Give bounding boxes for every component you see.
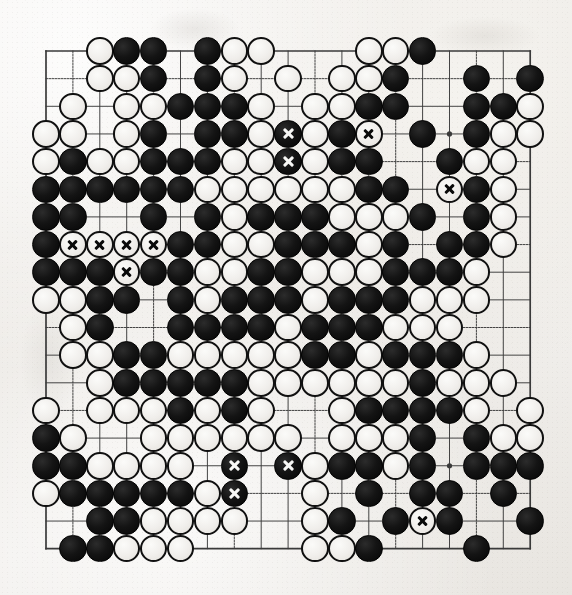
stone-black[interactable] bbox=[113, 507, 141, 535]
stone-white[interactable] bbox=[274, 65, 302, 93]
stone-white[interactable] bbox=[32, 148, 60, 176]
stone-white[interactable] bbox=[301, 535, 329, 563]
stone-white[interactable] bbox=[436, 369, 464, 397]
stone-white[interactable] bbox=[59, 314, 87, 342]
stone-black[interactable] bbox=[409, 452, 437, 480]
stone-white[interactable] bbox=[463, 286, 491, 314]
stone-white[interactable] bbox=[221, 203, 249, 231]
stone-black[interactable] bbox=[463, 424, 491, 452]
stone-black[interactable] bbox=[59, 452, 87, 480]
stone-white[interactable] bbox=[355, 231, 383, 259]
stone-black[interactable] bbox=[409, 369, 437, 397]
stone-white[interactable] bbox=[86, 148, 114, 176]
stone-white[interactable] bbox=[113, 120, 141, 148]
stone-black[interactable] bbox=[59, 176, 87, 204]
stone-black[interactable] bbox=[140, 120, 168, 148]
stone-black[interactable] bbox=[463, 120, 491, 148]
stone-black-marked[interactable] bbox=[274, 452, 302, 480]
stone-white[interactable] bbox=[59, 424, 87, 452]
stone-black[interactable] bbox=[328, 507, 356, 535]
stone-black-marked[interactable] bbox=[274, 120, 302, 148]
stone-white[interactable] bbox=[490, 369, 518, 397]
stone-white[interactable] bbox=[382, 37, 410, 65]
stone-black[interactable] bbox=[86, 258, 114, 286]
stone-black[interactable] bbox=[463, 452, 491, 480]
stone-white[interactable] bbox=[247, 176, 275, 204]
stone-black[interactable] bbox=[355, 480, 383, 508]
stone-black[interactable] bbox=[113, 286, 141, 314]
stone-black[interactable] bbox=[140, 258, 168, 286]
stone-white[interactable] bbox=[516, 120, 544, 148]
stone-white[interactable] bbox=[516, 424, 544, 452]
stone-black[interactable] bbox=[32, 452, 60, 480]
stone-white[interactable] bbox=[301, 93, 329, 121]
stone-white[interactable] bbox=[247, 93, 275, 121]
stone-white[interactable] bbox=[32, 397, 60, 425]
stone-black[interactable] bbox=[409, 203, 437, 231]
stone-black[interactable] bbox=[221, 397, 249, 425]
stone-white[interactable] bbox=[328, 258, 356, 286]
stone-black[interactable] bbox=[382, 507, 410, 535]
stone-black[interactable] bbox=[409, 37, 437, 65]
stone-white[interactable] bbox=[221, 37, 249, 65]
stone-white[interactable] bbox=[463, 258, 491, 286]
stone-white[interactable] bbox=[221, 424, 249, 452]
stone-black[interactable] bbox=[355, 452, 383, 480]
stone-white[interactable] bbox=[274, 314, 302, 342]
stone-white-marked[interactable] bbox=[59, 231, 87, 259]
stone-white[interactable] bbox=[32, 480, 60, 508]
stone-black[interactable] bbox=[59, 480, 87, 508]
stone-white[interactable] bbox=[355, 424, 383, 452]
stone-white[interactable] bbox=[167, 507, 195, 535]
stone-black[interactable] bbox=[516, 452, 544, 480]
stone-white[interactable] bbox=[194, 176, 222, 204]
stone-white[interactable] bbox=[86, 37, 114, 65]
stone-black[interactable] bbox=[167, 286, 195, 314]
stone-black[interactable] bbox=[355, 314, 383, 342]
stone-white[interactable] bbox=[59, 286, 87, 314]
stone-black[interactable] bbox=[59, 203, 87, 231]
stone-white[interactable] bbox=[463, 341, 491, 369]
stone-white[interactable] bbox=[194, 397, 222, 425]
stone-black[interactable] bbox=[194, 120, 222, 148]
stone-black[interactable] bbox=[301, 203, 329, 231]
stone-black[interactable] bbox=[274, 203, 302, 231]
stone-black[interactable] bbox=[32, 203, 60, 231]
stone-white[interactable] bbox=[247, 37, 275, 65]
stone-white[interactable] bbox=[194, 424, 222, 452]
stone-white[interactable] bbox=[247, 341, 275, 369]
stone-white[interactable] bbox=[382, 452, 410, 480]
stone-white[interactable] bbox=[86, 341, 114, 369]
stone-white[interactable] bbox=[490, 203, 518, 231]
stone-black[interactable] bbox=[301, 341, 329, 369]
stone-white[interactable] bbox=[140, 424, 168, 452]
stone-white[interactable] bbox=[194, 341, 222, 369]
stone-black[interactable] bbox=[167, 176, 195, 204]
stone-white[interactable] bbox=[221, 258, 249, 286]
stone-black[interactable] bbox=[86, 286, 114, 314]
stone-white[interactable] bbox=[328, 535, 356, 563]
stone-black[interactable] bbox=[409, 424, 437, 452]
stone-black[interactable] bbox=[140, 203, 168, 231]
stone-white[interactable] bbox=[221, 176, 249, 204]
stone-white[interactable] bbox=[247, 369, 275, 397]
stone-black[interactable] bbox=[140, 37, 168, 65]
stone-white[interactable] bbox=[328, 93, 356, 121]
stone-white[interactable] bbox=[328, 369, 356, 397]
stone-black-marked[interactable] bbox=[221, 452, 249, 480]
stone-black[interactable] bbox=[436, 507, 464, 535]
stone-white[interactable] bbox=[86, 397, 114, 425]
stone-black-marked[interactable] bbox=[274, 148, 302, 176]
stone-white[interactable] bbox=[301, 258, 329, 286]
stone-white[interactable] bbox=[436, 286, 464, 314]
stone-white[interactable] bbox=[274, 176, 302, 204]
stone-black[interactable] bbox=[328, 314, 356, 342]
stone-white[interactable] bbox=[113, 452, 141, 480]
stone-black[interactable] bbox=[59, 258, 87, 286]
stone-black[interactable] bbox=[247, 314, 275, 342]
stone-black[interactable] bbox=[247, 258, 275, 286]
stone-black[interactable] bbox=[59, 148, 87, 176]
stone-white[interactable] bbox=[490, 120, 518, 148]
stone-white[interactable] bbox=[59, 120, 87, 148]
stone-black[interactable] bbox=[301, 314, 329, 342]
